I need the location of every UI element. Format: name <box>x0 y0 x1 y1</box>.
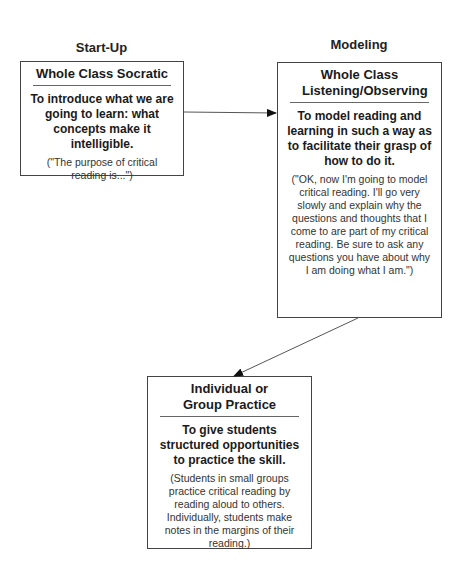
connector-layer <box>0 0 459 563</box>
arrow-startup-to-modeling <box>184 112 276 113</box>
arrow-modeling-to-practice <box>234 318 358 376</box>
